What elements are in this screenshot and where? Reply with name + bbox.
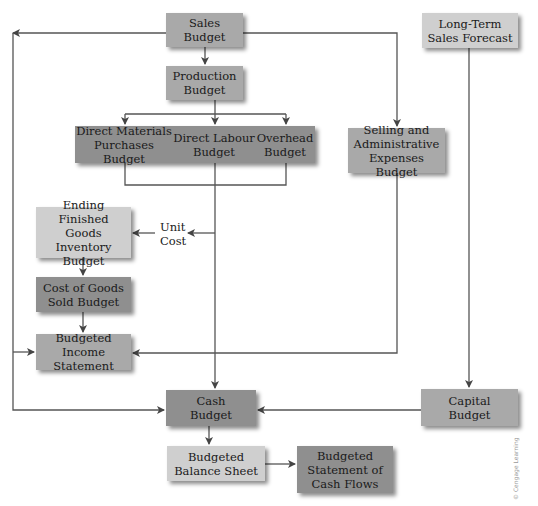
- budgeted-statement-of-cash-flows-box: Budgeted Statement of Cash Flows: [297, 446, 393, 493]
- cost-of-goods-sold-budget-box: Cost of Goods Sold Budget: [36, 277, 131, 312]
- copyright-watermark: © Cengage Learning: [512, 440, 519, 500]
- cash-budget-box: Cash Budget: [166, 390, 256, 426]
- budgeted-income-statement-box: Budgeted Income Statement: [36, 334, 131, 370]
- overhead-budget-box: Overhead Budget: [255, 126, 315, 163]
- unit-cost-label: Unit Cost: [160, 220, 186, 248]
- production-budget-box: Production Budget: [166, 66, 243, 100]
- master-budget-diagram: Sales Budget Long-Term Sales Forecast Pr…: [0, 0, 538, 506]
- direct-materials-purchases-budget-box: Direct Materials Purchases Budget: [75, 126, 173, 163]
- direct-labour-budget-box: Direct Labour Budget: [173, 126, 255, 163]
- direct-costs-group-box: Direct Materials Purchases Budget Direct…: [75, 126, 315, 163]
- capital-budget-box: Capital Budget: [421, 389, 518, 426]
- budgeted-balance-sheet-box: Budgeted Balance Sheet: [167, 446, 265, 481]
- long-term-sales-forecast-box: Long-Term Sales Forecast: [422, 13, 518, 48]
- ending-finished-goods-inventory-budget-box: Ending Finished Goods Inventory Budget: [36, 207, 131, 258]
- selling-admin-expenses-budget-box: Selling and Administrative Expenses Budg…: [348, 128, 445, 173]
- sales-budget-box: Sales Budget: [166, 13, 243, 47]
